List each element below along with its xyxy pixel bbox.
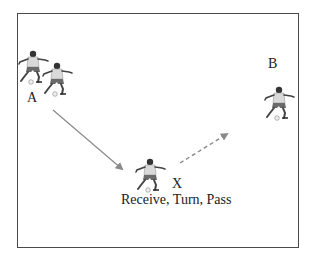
player-x-icon [136, 159, 165, 193]
player-a1-icon [19, 51, 48, 85]
diagram-canvas [0, 0, 314, 263]
label-a: A [27, 91, 37, 105]
pass-arrow-x-to-b [180, 134, 227, 163]
player-b-icon [265, 87, 294, 121]
label-action: Receive, Turn, Pass [121, 193, 231, 207]
label-x: X [172, 177, 182, 191]
player-a2-icon [43, 63, 72, 97]
label-b: B [268, 57, 277, 71]
pass-arrow-a-to-x [53, 110, 122, 169]
